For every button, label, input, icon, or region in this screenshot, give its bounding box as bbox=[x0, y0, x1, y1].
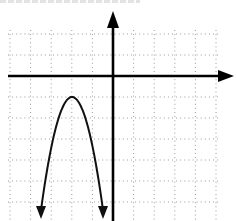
x-axis bbox=[8, 70, 234, 82]
x-axis-arrow-icon bbox=[218, 70, 234, 82]
y-axis bbox=[107, 11, 119, 221]
left-branch-arrow-icon bbox=[36, 206, 46, 219]
coordinate-plane bbox=[0, 0, 237, 221]
y-axis-arrow-icon bbox=[107, 11, 119, 28]
right-branch-arrow-icon bbox=[98, 206, 108, 219]
